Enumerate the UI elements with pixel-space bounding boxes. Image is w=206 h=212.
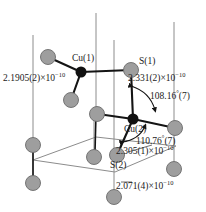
bond-length-cu1-left: 2.1905(2)×10−10: [3, 74, 65, 84]
bond-angle-lower: 110.76°(7): [136, 137, 175, 147]
atom-label-s2: S(2): [110, 161, 126, 171]
atom-cu2: [128, 114, 139, 125]
atom-cu1: [76, 67, 87, 78]
bond-length-s1-cu2-exponent: −10: [175, 71, 185, 78]
bond-length-bottom-value: 2.071(4): [116, 181, 148, 191]
bond-length-bottom-exponent: −10: [163, 179, 173, 186]
bond-angle-lower-esd: (7): [164, 136, 175, 146]
atom-s-bottommid: [87, 150, 102, 165]
atom-s-upperleft: [41, 50, 56, 65]
bond-length-s1-cu2-multiplier: ×10: [160, 73, 175, 83]
bond-angle-upper: 108.16°(7): [150, 92, 190, 102]
bond-length-bottom-multiplier: ×10: [148, 181, 163, 191]
bond-angle-lower-value: 110.76: [136, 136, 162, 146]
atom-s-leftcell: [26, 138, 41, 153]
atom-s-rightlow: [167, 162, 182, 177]
bond-length-cu2-s2-multiplier: ×10: [148, 146, 163, 156]
bond-length-bottom: 2.071(4)×10−10: [116, 182, 173, 192]
atom-s-leftbottom: [26, 176, 41, 191]
atom-s-mid: [90, 107, 105, 122]
bond-length-s1-cu2: 2.331(2)×10−10: [128, 74, 185, 84]
atom-label-cu2: Cu(2): [124, 125, 146, 135]
bond-length-cu1-left-value: 2.1905(2): [3, 73, 40, 83]
bond-vertical-sticks: [33, 114, 96, 180]
atom-label-s1: S(1): [139, 57, 155, 67]
atom-s-right: [168, 121, 183, 136]
atom-label-cu1: Cu(1): [72, 54, 94, 64]
bond-length-s1-cu2-value: 2.331(2): [128, 73, 160, 83]
bond-length-cu2-s2-value: 2.305(1): [116, 146, 148, 156]
bond-length-cu1-left-exponent: −10: [55, 71, 65, 78]
bond-angle-upper-value: 108.16: [150, 91, 176, 101]
crystal-structure-figure: Cu(1) S(1) Cu(2) S(2) 2.1905(2)×10−10 2.…: [0, 0, 206, 212]
bond-length-cu1-left-multiplier: ×10: [40, 73, 55, 83]
structure-canvas: [0, 0, 206, 212]
atom-s-bottom: [107, 190, 122, 205]
cell-bottom-edge-front-left: [33, 160, 115, 172]
bond-length-cu2-s2: 2.305(1)×10−10: [116, 147, 173, 157]
bond-angle-upper-esd: (7): [179, 91, 190, 101]
atom-s-lowerleft: [64, 93, 79, 108]
